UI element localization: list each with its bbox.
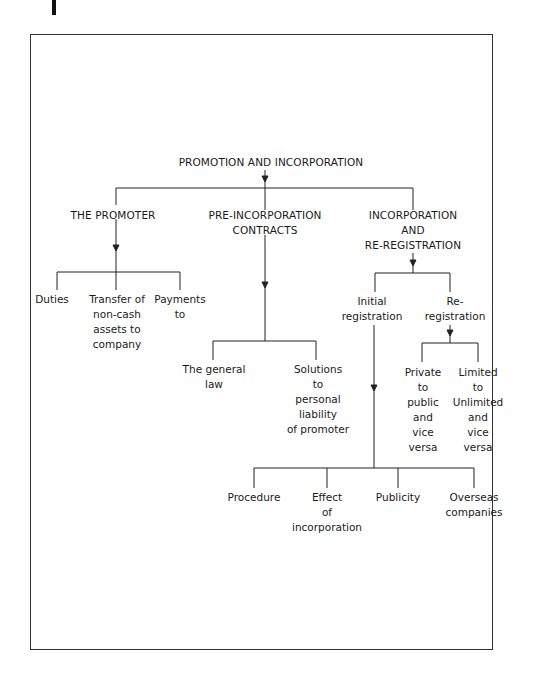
node-the-general-law: The general law (183, 362, 246, 392)
node-transfer-of-non-cash-assets: Transfer of non-cash assets to company (89, 292, 145, 352)
node-private-to-public: Private to public and vice versa (405, 365, 442, 455)
node-overseas-companies: Overseas companies (445, 490, 502, 520)
connector-lines (0, 0, 543, 695)
node-publicity: Publicity (376, 490, 420, 505)
node-effect-of-incorporation: Effect of incorporation (292, 490, 362, 535)
node-incorporation-and-re-registration: INCORPORATION AND RE-REGISTRATION (365, 208, 461, 253)
node-pre-incorporation-contracts: PRE-INCORPORATION CONTRACTS (208, 208, 321, 238)
node-duties: Duties (35, 292, 69, 307)
node-payments-to: Payments to (154, 292, 205, 322)
root-node: PROMOTION AND INCORPORATION (179, 155, 364, 170)
node-solutions-to-personal-liability: Solutions to personal liability of promo… (287, 362, 349, 437)
node-limited-to-unlimited: Limited to Unlimited and vice versa (453, 365, 504, 455)
node-the-promoter: THE PROMOTER (70, 208, 155, 223)
node-procedure: Procedure (228, 490, 281, 505)
node-initial-registration: Initial registration (342, 294, 403, 324)
node-re-registration: Re- registration (425, 294, 486, 324)
